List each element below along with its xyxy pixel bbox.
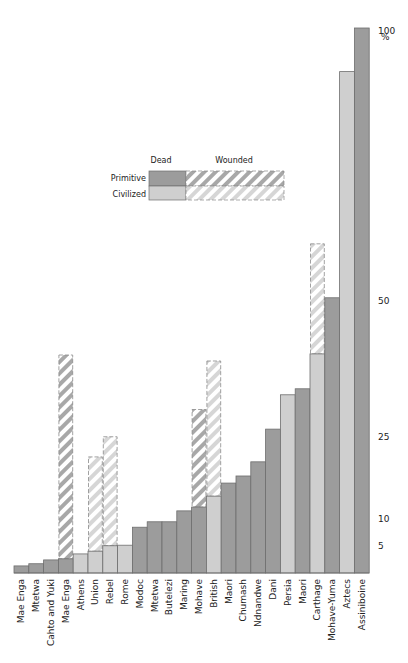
dead-bar: [162, 522, 177, 573]
x-tick-label: Chumash: [238, 579, 248, 621]
dead-bar: [147, 522, 162, 573]
x-tick-label: Rome: [120, 579, 130, 605]
dead-bar: [177, 511, 192, 573]
x-tick-label: Butelezi: [164, 579, 174, 615]
dead-bar: [236, 476, 251, 573]
dead-bar: [251, 462, 266, 573]
dead-bar: [132, 527, 147, 573]
dead-bar: [221, 483, 236, 573]
x-tick-label: Mohave-Yuma: [327, 579, 337, 641]
dead-bar: [103, 546, 118, 573]
wounded-bar: [311, 244, 325, 354]
bars-group: [14, 28, 369, 573]
x-tick-label: Mae Enga: [61, 579, 71, 623]
dead-bar: [58, 559, 73, 573]
x-tick-label: Mohave: [194, 579, 204, 615]
dead-bar: [206, 496, 221, 573]
legend-civilized-label: Civilized: [113, 190, 146, 199]
y-tick-label: 10: [378, 514, 390, 524]
dead-bar: [44, 560, 59, 573]
x-tick-label: Ndnandwe: [253, 579, 263, 627]
legend: Dead Wounded Primitive Civilized: [111, 156, 284, 200]
x-tick-label: Dani: [268, 579, 278, 600]
dead-bar: [280, 395, 295, 573]
x-tick-label: Maori: [298, 579, 308, 604]
x-tick-label: Carthage: [312, 579, 322, 621]
x-tick-label: Aztecs: [342, 579, 352, 609]
x-tick-label: Mae Enga: [16, 579, 26, 623]
dead-bar: [340, 72, 355, 573]
x-tick-label: Modoc: [135, 579, 145, 608]
x-tick-label: British: [209, 579, 219, 608]
legend-dead-label: Dead: [150, 156, 171, 165]
y-axis-labels: 1005025105%: [378, 26, 395, 551]
wounded-bar: [103, 437, 117, 546]
dead-bar: [192, 507, 207, 573]
casualty-bar-chart: Mae EngaMtetwaCahto and YukiMae EngaAthe…: [0, 0, 408, 663]
legend-wounded-label: Wounded: [215, 156, 253, 165]
x-tick-label: Rebel: [105, 579, 115, 604]
y-unit-label: %: [381, 32, 390, 42]
y-tick-label: 25: [378, 432, 389, 442]
legend-primitive-label: Primitive: [111, 174, 146, 183]
dead-bar: [310, 354, 325, 573]
dead-bar: [88, 551, 103, 573]
dead-bar: [14, 566, 29, 573]
legend-civilized-dead-swatch: [149, 186, 186, 200]
dead-bar: [354, 28, 369, 573]
legend-primitive-wounded-swatch: [186, 171, 284, 186]
x-tick-label: Maori: [224, 579, 234, 604]
x-tick-label: Mtetwa: [150, 579, 160, 612]
wounded-bar: [207, 361, 221, 496]
x-axis-labels: Mae EngaMtetwaCahto and YukiMae EngaAthe…: [16, 579, 366, 647]
legend-primitive-dead-swatch: [149, 171, 186, 186]
y-tick-label: 50: [378, 296, 390, 306]
x-tick-label: Maring: [179, 579, 189, 610]
x-tick-label: Mtetwa: [31, 579, 41, 612]
x-tick-label: Cahto and Yuki: [46, 579, 56, 646]
wounded-bar: [89, 457, 103, 551]
dead-bar: [325, 298, 340, 573]
dead-bar: [73, 554, 88, 573]
x-tick-label: Persia: [283, 579, 293, 606]
dead-bar: [118, 545, 133, 573]
wounded-bar: [192, 410, 206, 508]
x-tick-label: Union: [90, 579, 100, 605]
dead-bar: [295, 389, 310, 573]
dead-bar: [266, 429, 281, 573]
wounded-bar: [59, 355, 73, 559]
y-tick-label: 5: [378, 541, 384, 551]
legend-civilized-wounded-swatch: [186, 186, 284, 200]
x-tick-label: Athens: [76, 579, 86, 610]
dead-bar: [29, 564, 44, 573]
x-tick-label: Assiniboine: [357, 579, 367, 631]
